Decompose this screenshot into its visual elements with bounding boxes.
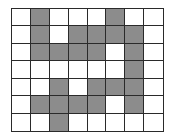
grid-cell-empty [106, 61, 125, 78]
grid-cell-empty [88, 61, 107, 78]
grid-cell-empty [144, 26, 163, 43]
grid-cell-empty [144, 44, 163, 61]
grid-cell-empty [69, 61, 88, 78]
grid-cell-empty [12, 61, 31, 78]
grid-cell-filled [31, 9, 50, 26]
grid-cell-filled [50, 44, 69, 61]
grid-cell-filled [125, 44, 144, 61]
grid-cell-empty [88, 114, 107, 131]
grid-cell-empty [144, 61, 163, 78]
grid-cell-empty [69, 9, 88, 26]
grid-cell-empty [50, 9, 69, 26]
grid-cell-empty [106, 96, 125, 113]
grid-cell-filled [125, 79, 144, 96]
grid-cell-empty [12, 26, 31, 43]
grid-cell-filled [125, 61, 144, 78]
grid-cell-filled [50, 79, 69, 96]
grid-cell-filled [31, 44, 50, 61]
grid-cell-filled [50, 114, 69, 131]
grid-cell-empty [125, 9, 144, 26]
grid-cell-filled [69, 96, 88, 113]
grid-cell-filled [31, 26, 50, 43]
grid-cell-empty [12, 9, 31, 26]
grid-cell-empty [12, 79, 31, 96]
grid-cell-empty [31, 79, 50, 96]
grid-cell-empty [106, 44, 125, 61]
grid-cell-filled [88, 26, 107, 43]
grid-cell-empty [106, 114, 125, 131]
grid-cell-empty [144, 114, 163, 131]
grid-cell-empty [69, 114, 88, 131]
grid-cell-empty [144, 79, 163, 96]
grid-cell-empty [144, 9, 163, 26]
grid-cell-filled [31, 96, 50, 113]
grid-cell-empty [12, 44, 31, 61]
grid-cell-filled [88, 96, 107, 113]
grid-cell-empty [50, 61, 69, 78]
grid-cell-filled [106, 9, 125, 26]
grid-cell-filled [106, 26, 125, 43]
grid-cell-empty [125, 114, 144, 131]
grid-cell-filled [88, 79, 107, 96]
shaded-grid [11, 8, 164, 132]
grid-cell-filled [88, 44, 107, 61]
grid-cell-filled [50, 96, 69, 113]
grid-cell-filled [69, 44, 88, 61]
grid-cell-empty [31, 114, 50, 131]
grid-cell-empty [50, 26, 69, 43]
grid-cell-empty [12, 96, 31, 113]
grid-cell-empty [69, 79, 88, 96]
grid-cell-empty [144, 96, 163, 113]
grid-cell-empty [12, 114, 31, 131]
grid-cell-filled [69, 26, 88, 43]
grid-cell-filled [125, 26, 144, 43]
grid-cell-filled [125, 96, 144, 113]
grid-cell-filled [106, 79, 125, 96]
grid-cell-empty [88, 9, 107, 26]
grid-cell-empty [31, 61, 50, 78]
